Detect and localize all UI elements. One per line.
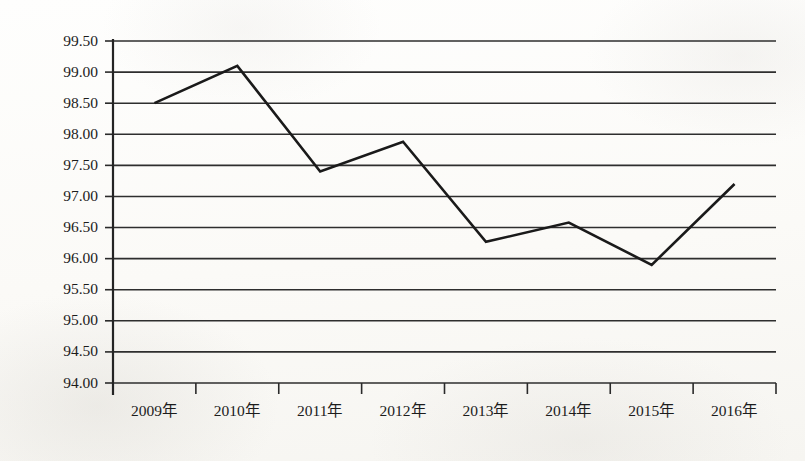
y-axis-tick-label: 94.00 <box>63 374 98 391</box>
x-axis-tick-label: 2013年 <box>462 402 509 419</box>
y-axis-tick-label: 96.00 <box>63 249 98 266</box>
x-axis-tick-label: 2012年 <box>380 402 427 419</box>
line-chart: 99.5099.0098.5098.0097.5097.0096.5096.00… <box>0 0 805 461</box>
y-axis-tick-label: 98.50 <box>63 94 98 111</box>
x-axis-tick-label: 2011年 <box>297 402 343 419</box>
y-axis-tick-label: 97.50 <box>63 156 98 173</box>
y-axis-tick-label: 94.50 <box>63 342 98 359</box>
y-axis-tick-label: 96.50 <box>63 218 98 235</box>
y-axis-tick-label: 99.50 <box>63 32 98 49</box>
x-axis-tick-label: 2009年 <box>131 402 178 419</box>
y-axis-tick-labels: 99.5099.0098.5098.0097.5097.0096.5096.00… <box>63 32 98 391</box>
x-axis-tick-marks <box>196 383 776 394</box>
y-axis-tick-label: 99.00 <box>63 63 98 80</box>
chart-page: 99.5099.0098.5098.0097.5097.0096.5096.00… <box>0 0 805 461</box>
x-axis-tick-label: 2014年 <box>545 402 592 419</box>
gridlines-group <box>105 41 776 383</box>
y-axis-tick-label: 95.50 <box>63 280 98 297</box>
y-axis-tick-label: 95.00 <box>63 311 98 328</box>
x-axis-tick-label: 2015年 <box>628 402 675 419</box>
x-axis-tick-label: 2016年 <box>711 402 758 419</box>
y-axis-tick-label: 98.00 <box>63 125 98 142</box>
x-axis-tick-label: 2010年 <box>214 402 261 419</box>
x-axis-tick-labels: 2009年2010年2011年2012年2013年2014年2015年2016年 <box>131 402 758 419</box>
y-axis-tick-label: 97.00 <box>63 187 98 204</box>
